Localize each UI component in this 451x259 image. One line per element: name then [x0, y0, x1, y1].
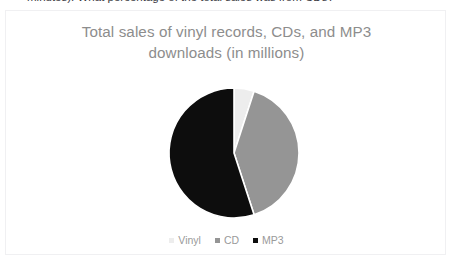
clipped-question-strip: minutes). What percentage of the total s…: [0, 0, 451, 9]
pie-slice-group: [169, 88, 299, 218]
legend-swatch-icon-mp3: [253, 238, 258, 243]
legend-swatch-icon-vinyl: [169, 238, 174, 243]
clipped-question-text: minutes). What percentage of the total s…: [27, 0, 447, 4]
pie-chart-area: [6, 11, 447, 256]
legend-label: CD: [224, 234, 239, 246]
legend-item-mp3: MP3: [253, 234, 284, 246]
chart-legend: VinylCDMP3: [6, 234, 447, 246]
legend-swatch-icon-cd: [215, 238, 220, 243]
legend-item-vinyl: Vinyl: [169, 234, 201, 246]
pie-chart-graphic: [158, 77, 310, 229]
legend-item-cd: CD: [215, 234, 239, 246]
legend-label: Vinyl: [178, 234, 201, 246]
legend-label: MP3: [262, 234, 284, 246]
pie-chart-panel: Total sales of vinyl records, CDs, and M…: [5, 10, 446, 255]
